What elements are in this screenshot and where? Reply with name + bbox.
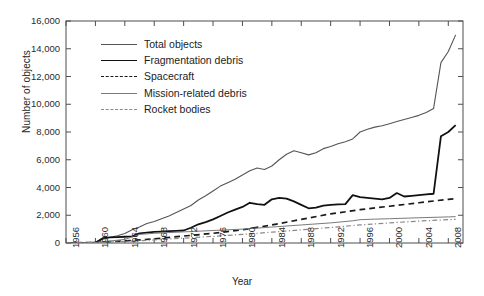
legend-swatch-icon [101, 103, 137, 115]
x-tick-label: 2008 [452, 227, 463, 248]
legend-swatch-icon [101, 87, 137, 99]
y-tick-label: 6,000 [12, 154, 60, 165]
x-tick-label: 1968 [158, 227, 169, 248]
x-axis-label: Year [0, 276, 484, 287]
y-tick-label: 2,000 [12, 209, 60, 220]
legend-item-label: Rocket bodies [144, 103, 211, 115]
x-tick-label: 1960 [99, 227, 110, 248]
x-tick-label: 1972 [188, 227, 199, 248]
x-tick-label: 1988 [305, 227, 316, 248]
chart-figure: Number of objects Year 02,0004,0006,0008… [0, 0, 484, 296]
y-tick-label: 16,000 [12, 15, 60, 26]
x-tick-label: 1980 [246, 227, 257, 248]
legend-item-label: Mission-related debris [144, 87, 247, 99]
legend-item-mission-related-debris: Mission-related debris [101, 85, 247, 101]
y-tick-label: 12,000 [12, 71, 60, 82]
legend-item-label: Fragmentation debris [144, 54, 243, 66]
legend-swatch-icon [101, 54, 137, 66]
x-tick-label: 1964 [129, 227, 140, 248]
y-tick-label: 4,000 [12, 182, 60, 193]
x-tick-label: 1992 [335, 227, 346, 248]
legend-item-fragmentation-debris: Fragmentation debris [101, 52, 247, 68]
legend-item-rocket-bodies: Rocket bodies [101, 101, 247, 117]
x-tick-label: 1956 [70, 227, 81, 248]
legend-item-spacecraft: Spacecraft [101, 68, 247, 84]
x-tick-label: 1996 [364, 227, 375, 248]
legend-item-label: Total objects [144, 38, 202, 50]
x-tick-label: 2000 [393, 227, 404, 248]
x-tick-label: 2004 [423, 227, 434, 248]
y-tick-label: 10,000 [12, 98, 60, 109]
legend-item-total-objects: Total objects [101, 36, 247, 52]
y-tick-label: 0 [12, 237, 60, 248]
y-tick-label: 8,000 [12, 126, 60, 137]
x-tick-label: 1984 [276, 227, 287, 248]
legend-swatch-icon [101, 38, 137, 50]
legend-swatch-icon [101, 70, 137, 82]
x-tick-label: 1976 [217, 227, 228, 248]
chart-legend: Total objectsFragmentation debrisSpacecr… [101, 36, 247, 117]
y-tick-label: 14,000 [12, 43, 60, 54]
series-line-fragmentation-debris [66, 125, 456, 243]
legend-item-label: Spacecraft [144, 70, 194, 82]
